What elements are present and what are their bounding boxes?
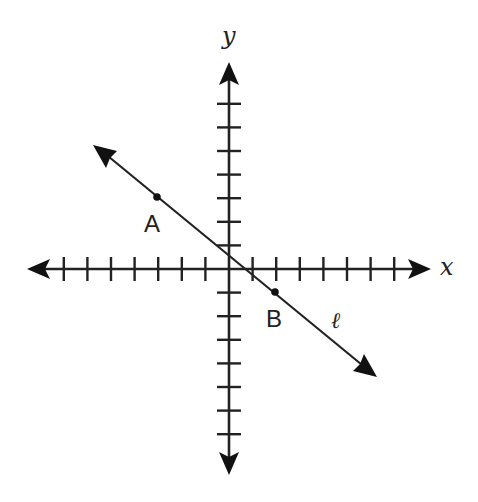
- coordinate-plane: x y A B ℓ: [0, 0, 478, 502]
- line-l: [103, 152, 367, 369]
- point-a: [153, 193, 161, 201]
- point-b-label: B: [266, 305, 282, 332]
- point-b: [271, 288, 279, 296]
- line-l-upper-arrow-icon: [93, 145, 117, 168]
- line-l-lower-arrow-icon: [353, 354, 377, 377]
- point-a-label: A: [144, 210, 160, 237]
- y-axis-label: y: [221, 22, 236, 50]
- line-l-label: ℓ: [331, 308, 341, 333]
- x-axis-label: x: [440, 253, 454, 281]
